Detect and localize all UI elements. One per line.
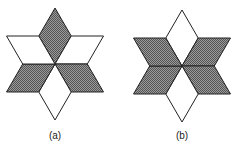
star-b [134,10,231,122]
label-a: (a) [49,130,61,141]
label-b: (b) [176,130,188,141]
stars-diagram [0,0,240,149]
star-a [7,8,104,120]
